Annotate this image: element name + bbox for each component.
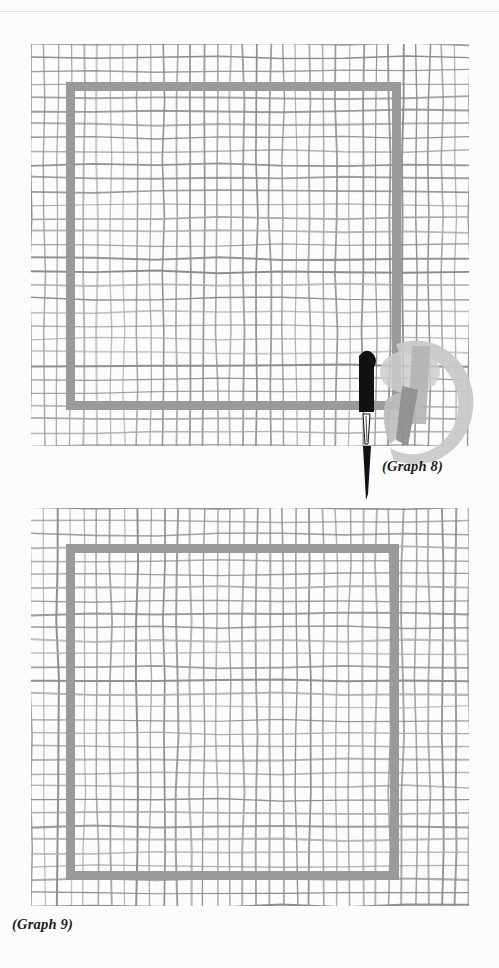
square-outline-9 xyxy=(66,544,399,880)
figure-graph-8: (Graph 8) xyxy=(0,28,499,483)
figure-graph-9: (Graph 9) xyxy=(0,492,499,962)
figure-caption-9: (Graph 9) xyxy=(12,916,73,933)
page-canvas: (Graph 8) (Graph 9) xyxy=(0,0,499,968)
page-top-rule xyxy=(0,11,499,12)
figure-caption-8: (Graph 8) xyxy=(382,458,443,475)
square-outline-8 xyxy=(66,82,401,410)
